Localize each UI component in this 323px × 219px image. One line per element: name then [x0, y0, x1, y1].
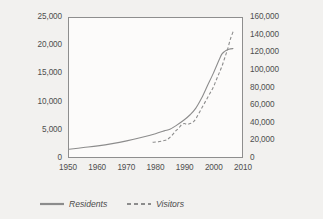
x-tick-label: 2010	[223, 164, 263, 172]
y-right-tick-label: 20,000	[250, 136, 274, 144]
y-left-tick-label: 10,000	[38, 98, 62, 106]
y-right-tick-label: 120,000	[250, 48, 279, 56]
series-line-visitors	[153, 31, 234, 142]
y-right-tick-label: 100,000	[250, 66, 279, 74]
y-left-tick-label: 0	[58, 154, 62, 162]
y-left-tick-label: 25,000	[38, 13, 62, 21]
y-right-tick-label: 80,000	[250, 84, 274, 92]
y-right-tick-label: 140,000	[250, 31, 279, 39]
chart-legend: ResidentsVisitors	[0, 196, 323, 212]
y-left-tick-label: 5,000	[42, 126, 62, 134]
legend-item-visitors[interactable]: Visitors	[127, 196, 184, 212]
legend-label: Residents	[69, 200, 107, 209]
plot-lines	[69, 18, 242, 157]
y-left-tick-label: 20,000	[38, 41, 62, 49]
legend-label: Visitors	[156, 200, 184, 209]
legend-swatch-dashed	[127, 200, 151, 208]
y-right-tick-label: 40,000	[250, 119, 274, 127]
chart-container: 05,00010,00015,00020,00025,000 020,00040…	[0, 0, 323, 219]
plot-area	[68, 17, 243, 158]
y-right-tick-label: 0	[250, 154, 254, 162]
series-line-residents	[69, 49, 233, 150]
y-right-tick-label: 160,000	[250, 13, 279, 21]
y-right-tick-label: 60,000	[250, 101, 274, 109]
legend-swatch-solid	[40, 200, 64, 208]
y-left-tick-label: 15,000	[38, 69, 62, 77]
legend-item-residents[interactable]: Residents	[40, 196, 107, 212]
